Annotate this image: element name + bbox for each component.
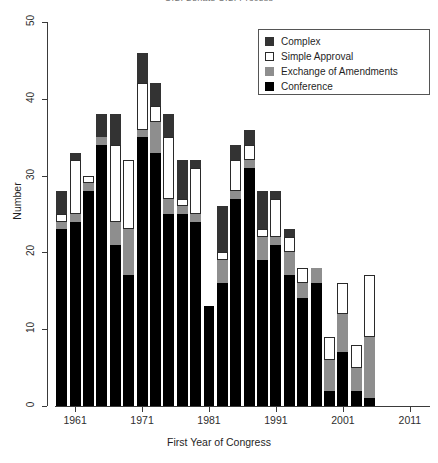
bar-1963 bbox=[83, 22, 94, 406]
bar-segment bbox=[364, 337, 375, 398]
y-tick bbox=[42, 406, 47, 407]
y-tick-label: 10 bbox=[25, 318, 36, 338]
x-tick-label: 1961 bbox=[54, 414, 96, 426]
legend-item: Complex bbox=[265, 34, 423, 48]
bar-segment bbox=[96, 145, 107, 406]
x-tick-label: 1981 bbox=[188, 414, 230, 426]
bar-segment bbox=[150, 83, 161, 106]
bar-segment bbox=[110, 245, 121, 406]
simple-approval-swatch-icon bbox=[265, 52, 274, 61]
bar-1983 bbox=[217, 22, 228, 406]
bar-segment bbox=[123, 229, 134, 275]
bar-1971 bbox=[137, 22, 148, 406]
x-axis-line bbox=[55, 406, 430, 407]
exchange-swatch-icon bbox=[265, 67, 274, 76]
bar-segment bbox=[190, 214, 201, 222]
bar-segment bbox=[137, 83, 148, 129]
x-tick bbox=[75, 407, 76, 412]
y-tick-label: 40 bbox=[25, 87, 36, 107]
bar-segment bbox=[257, 260, 268, 406]
bar-segment bbox=[257, 229, 268, 237]
bar-segment bbox=[217, 260, 228, 283]
bar-segment bbox=[83, 176, 94, 184]
bar-segment bbox=[204, 306, 215, 406]
y-axis-line bbox=[47, 22, 48, 406]
bar-1981 bbox=[204, 22, 215, 406]
y-tick-label: 50 bbox=[25, 11, 36, 31]
bar-1959 bbox=[56, 22, 67, 406]
bar-segment bbox=[177, 214, 188, 406]
bar-segment bbox=[190, 222, 201, 406]
bar-segment bbox=[70, 214, 81, 222]
bar-segment bbox=[137, 137, 148, 406]
bar-segment bbox=[96, 114, 107, 137]
bar-segment bbox=[351, 345, 362, 368]
bar-segment bbox=[297, 268, 308, 283]
bar-segment bbox=[257, 237, 268, 260]
bar-segment bbox=[230, 199, 241, 406]
y-tick bbox=[42, 99, 47, 100]
bar-segment bbox=[230, 145, 241, 160]
bar-segment bbox=[150, 122, 161, 153]
bar-segment bbox=[297, 298, 308, 406]
bar-segment bbox=[190, 160, 201, 168]
bar-1987 bbox=[244, 22, 255, 406]
bar-segment bbox=[110, 145, 121, 222]
bar-segment bbox=[270, 245, 281, 406]
bar-segment bbox=[284, 229, 295, 237]
x-tick bbox=[276, 407, 277, 412]
legend-item: Exchange of Amendments bbox=[265, 64, 423, 78]
bar-segment bbox=[110, 114, 121, 145]
chart-legend: Complex Simple Approval Exchange of Amen… bbox=[258, 29, 430, 95]
bar-1965 bbox=[96, 22, 107, 406]
bar-segment bbox=[324, 337, 335, 360]
bar-segment bbox=[150, 153, 161, 406]
x-tick bbox=[343, 407, 344, 412]
bar-segment bbox=[177, 206, 188, 214]
bar-segment bbox=[337, 314, 348, 352]
bar-segment bbox=[137, 130, 148, 138]
bar-1985 bbox=[230, 22, 241, 406]
bar-segment bbox=[56, 214, 67, 222]
y-tick-label: 0 bbox=[25, 395, 36, 415]
bar-segment bbox=[270, 199, 281, 237]
bar-segment bbox=[96, 137, 107, 145]
bar-segment bbox=[351, 368, 362, 391]
bar-segment bbox=[311, 283, 322, 406]
legend-item: Simple Approval bbox=[265, 49, 423, 63]
bar-segment bbox=[83, 191, 94, 406]
bar-1961 bbox=[70, 22, 81, 406]
y-tick bbox=[42, 176, 47, 177]
bar-segment bbox=[364, 275, 375, 336]
y-tick-label: 20 bbox=[25, 241, 36, 261]
bar-segment bbox=[270, 191, 281, 199]
bar-segment bbox=[163, 214, 174, 406]
x-tick bbox=[209, 407, 210, 412]
bar-segment bbox=[324, 360, 335, 391]
bar-1979 bbox=[190, 22, 201, 406]
bar-segment bbox=[284, 252, 295, 275]
x-tick bbox=[410, 407, 411, 412]
x-tick-label: 2011 bbox=[389, 414, 431, 426]
bar-1975 bbox=[163, 22, 174, 406]
chart-root: U.S. Senate U.S. Process 01020304050 196… bbox=[0, 0, 438, 463]
x-tick-label: 1971 bbox=[121, 414, 163, 426]
legend-item-label: Simple Approval bbox=[281, 51, 353, 62]
bar-segment bbox=[56, 229, 67, 406]
bar-segment bbox=[364, 398, 375, 406]
bar-segment bbox=[244, 145, 255, 160]
bar-segment bbox=[244, 168, 255, 406]
bar-segment bbox=[56, 222, 67, 230]
bar-segment bbox=[270, 237, 281, 245]
bar-segment bbox=[257, 191, 268, 229]
bar-1973 bbox=[150, 22, 161, 406]
bar-segment bbox=[110, 222, 121, 245]
bar-segment bbox=[163, 114, 174, 137]
bar-segment bbox=[177, 199, 188, 207]
bar-segment bbox=[123, 160, 134, 229]
bar-segment bbox=[244, 160, 255, 168]
x-tick-label: 2001 bbox=[322, 414, 364, 426]
bar-segment bbox=[217, 206, 228, 252]
x-axis-title: First Year of Congress bbox=[0, 436, 438, 448]
bar-segment bbox=[351, 391, 362, 406]
